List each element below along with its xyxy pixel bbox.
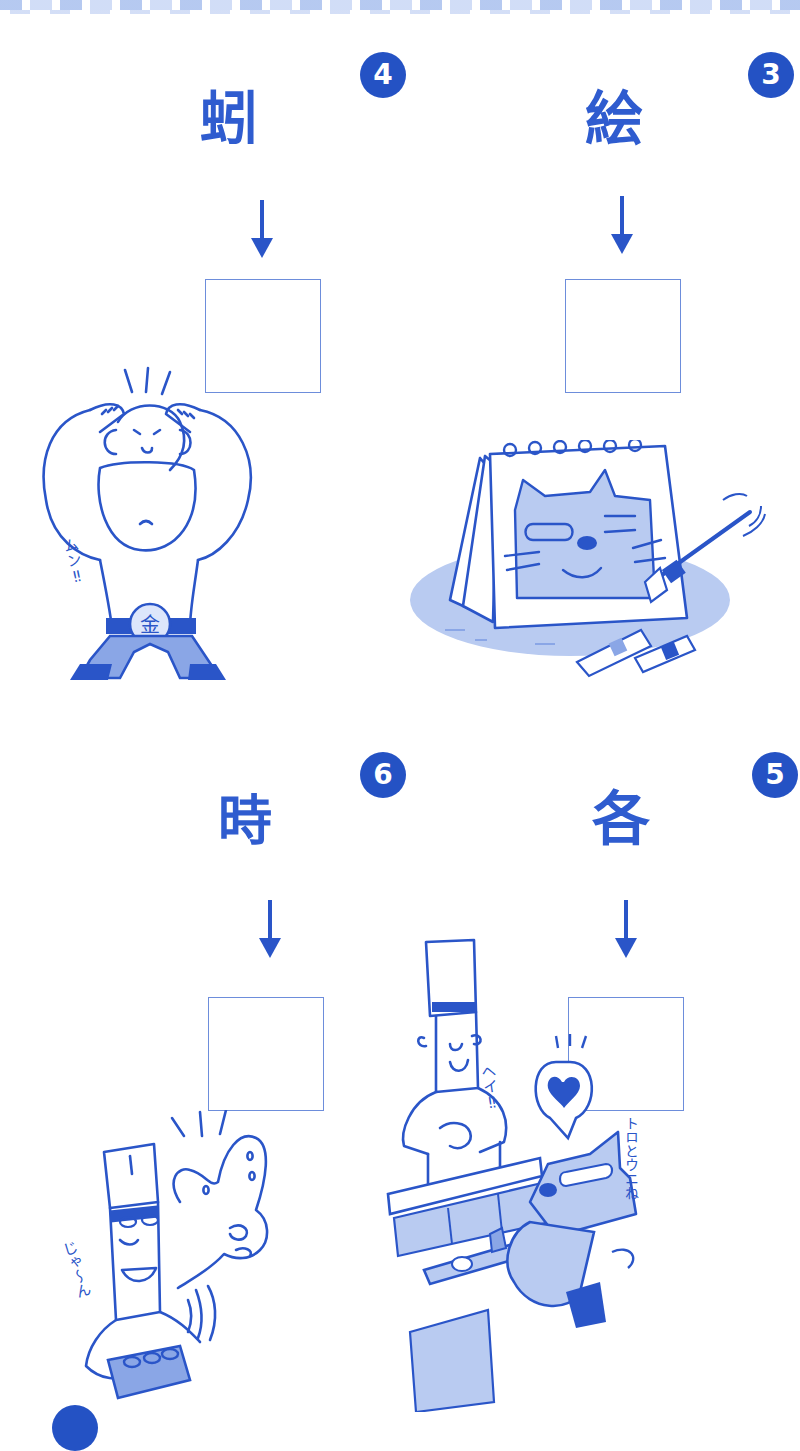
order-speech-text: トロとウニね [624,1116,638,1200]
puzzle-3: 絵 3 [400,0,800,700]
down-arrow-icon [610,196,634,256]
puzzle-5: 各 5 [400,700,800,1417]
answer-box[interactable] [208,997,324,1111]
sushi-chef-thumbs-up-illustration [60,1110,320,1410]
down-arrow-icon [258,900,282,960]
puzzle-number-badge: 3 [748,52,794,98]
puzzle-number-badge: 5 [752,752,798,798]
answer-box[interactable] [565,279,681,393]
scrambled-kanji: 絵 [585,90,637,148]
down-arrow-icon [250,200,274,260]
scrambled-kanji: 各 [592,790,644,848]
wrestler-illustration: 金 [30,360,270,680]
puzzle-4: 蚓 4 金 [0,0,400,700]
sushi-counter-cat-illustration [380,932,710,1412]
belt-label: 金 [140,613,160,637]
puzzle-6: 時 6 [0,700,400,1417]
sketchbook-cat-illustration [405,440,785,690]
scrambled-kanji: 時 [218,794,266,848]
scrambled-kanji: 蚓 [200,90,252,148]
next-puzzle-number-badge [52,1405,98,1451]
